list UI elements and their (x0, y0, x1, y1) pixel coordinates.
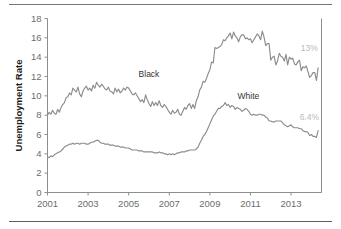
x-tick-label: 2007 (159, 198, 180, 209)
y-tick-label: 4 (36, 148, 41, 159)
black-end-value: 13% (301, 43, 318, 53)
series-labels: BlackWhite (139, 69, 260, 100)
y-tick-label: 12 (31, 71, 42, 82)
series-label-black: Black (139, 69, 161, 79)
unemployment-rate-line-chart: 024681012141618 200120032005200720092011… (0, 0, 341, 229)
y-tick-label: 16 (31, 32, 42, 43)
x-tick-label: 2011 (240, 198, 260, 209)
data-series (48, 31, 319, 158)
x-tick-label: 2009 (199, 198, 220, 209)
white-end-value: 6.4% (300, 112, 320, 122)
y-tick-label: 8 (36, 109, 41, 120)
y-tick-labels: 024681012141618 (31, 13, 42, 198)
y-tick-label: 2 (36, 167, 41, 178)
x-tick-label: 2001 (37, 198, 58, 209)
y-tick-label: 0 (36, 187, 41, 198)
y-tick-label: 6 (36, 129, 41, 140)
y-tick-label: 10 (31, 90, 42, 101)
series-label-white: White (238, 91, 260, 101)
x-tick-label: 2013 (280, 198, 301, 209)
x-tick-label: 2003 (78, 198, 99, 209)
y-axis-title: Unemployment Rate (13, 60, 24, 152)
chart-figure: 024681012141618 200120032005200720092011… (0, 0, 341, 229)
x-tick-label: 2005 (118, 198, 139, 209)
y-tick-label: 18 (31, 13, 42, 24)
end-value-annotations: 13%6.4% (300, 43, 320, 122)
x-tick-labels: 2001200320052007200920112013 (37, 198, 302, 209)
y-tick-label: 14 (31, 51, 42, 62)
series-line-black (48, 31, 319, 115)
axes (45, 19, 322, 196)
